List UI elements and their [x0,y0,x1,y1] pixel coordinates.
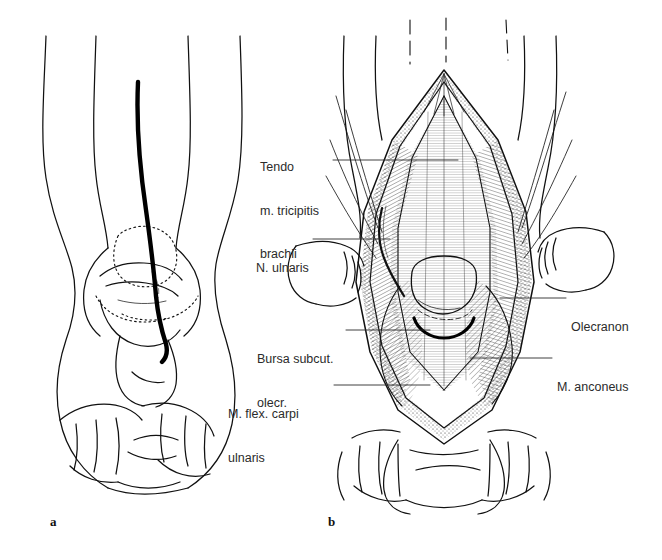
hand-b3-thumb [544,452,550,500]
medial-epicondyle [84,248,108,336]
palm-crease [134,436,178,441]
hand-b-left-lower [316,298,356,306]
hand-b3-finger2 [506,442,509,494]
inner-contour-left [94,36,108,248]
hand-b2-finger3 [398,444,400,496]
finger-l3 [116,418,119,474]
arm-outline-left [43,36,108,488]
joint-mid-edge [106,282,178,296]
hand-b3-right-back [488,430,536,438]
label-tendo-line1: Tendo [260,160,319,175]
arm-b-inner-left [375,36,382,140]
panel-b-drawing [288,18,614,514]
arm-b-outline-left [343,36,360,238]
hand-b2-finger1 [359,446,362,492]
label-n-ulnaris: N. ulnaris [256,232,309,290]
panel-a-drawing [43,36,242,494]
hand-b-right-finger2 [545,242,548,274]
hand-b-right-palm [586,232,614,290]
forearm-b-right [478,440,504,514]
forearm-left-edge [116,336,144,406]
figure-caption-b: b [328,514,335,530]
label-olecranon: Olecranon [571,291,629,349]
inner-contour-right [176,36,190,248]
forearm-b-crease [410,450,478,455]
hand-left-back [60,404,142,420]
hand-b-right-finger3 [539,248,542,278]
label-olecranon-line1: Olecranon [571,320,629,335]
dashed-guide-3 [506,20,508,60]
hand-b-left-finger1 [344,252,347,284]
finger-tips-right [158,460,210,476]
hand-b3-tips [482,486,534,501]
arm-b-outline-right [539,36,556,238]
hand-b2-finger2 [379,442,382,494]
hand-b-left-finger2 [352,256,355,288]
finger-r2 [185,416,188,466]
hand-b2-tips [354,486,406,501]
anatomical-illustration [0,0,662,560]
label-n-ulnaris-line1: N. ulnaris [256,261,309,276]
hand-b-right-back [538,228,604,253]
label-m-anconeus: M. anconeus [557,351,629,409]
hand-right-back [142,403,214,436]
olecranon-dotted-outline [114,226,177,287]
label-m-flex-carpi-ulnaris: M. flex. carpi ulnaris [228,378,299,480]
hand-b-right-finger1 [553,238,556,270]
label-bursa-line1: Bursa subcut. [257,352,333,367]
forearm-b-left [384,440,410,514]
finger-tips-left [70,466,118,482]
finger-l2 [94,420,97,472]
palm-b-crease [416,466,480,471]
hand-b-bottom-edge [406,500,482,508]
figure-caption-a: a [50,514,57,530]
label-tendo-line2: m. tricipitis [260,204,319,219]
label-flexcarpi-line1: M. flex. carpi [228,407,299,422]
hand-bottom-inner [118,482,180,488]
label-anconeus-line1: M. anconeus [557,380,629,395]
label-flexcarpi-line2: ulnaris [228,451,299,466]
condyle-dotted-outline [96,296,198,322]
finger-r3 [205,424,207,468]
arm-b-inner-right [518,36,525,140]
hand-b2-thumb [338,452,344,500]
forearm-crease [132,372,164,383]
hand-b3-finger3 [488,444,490,496]
lateral-epicondyle [176,248,200,336]
finger-r1 [161,414,164,462]
finger-l1 [74,424,77,470]
palm-crease-2 [128,452,176,459]
hand-b3-finger1 [526,446,529,492]
joint-lower-edge [100,300,180,346]
hand-bottom-edge [108,488,188,494]
hand-b2-left-back [352,430,400,438]
